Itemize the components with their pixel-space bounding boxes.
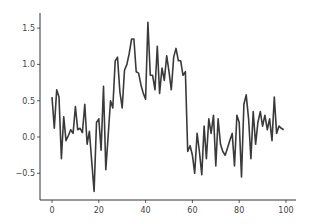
x-tick-label: 0 (49, 206, 54, 215)
x-tick-label: 80 (234, 206, 244, 215)
x-tick-label: 100 (278, 206, 293, 215)
y-tick-label: −0.5 (16, 169, 35, 178)
y-axis-ticks: −0.50.00.51.01.5 (16, 24, 40, 178)
data-line (52, 22, 284, 191)
x-axis-ticks: 020406080100 (49, 200, 293, 215)
x-tick-label: 40 (141, 206, 151, 215)
x-tick-label: 20 (94, 206, 104, 215)
line-chart: 020406080100 −0.50.00.51.01.5 (0, 0, 310, 224)
y-tick-label: 0.0 (22, 133, 35, 142)
y-tick-label: 1.0 (22, 60, 35, 69)
y-tick-label: 1.5 (22, 24, 35, 33)
x-tick-label: 60 (187, 206, 197, 215)
plot-area (52, 22, 284, 191)
y-tick-label: 0.5 (22, 97, 35, 106)
